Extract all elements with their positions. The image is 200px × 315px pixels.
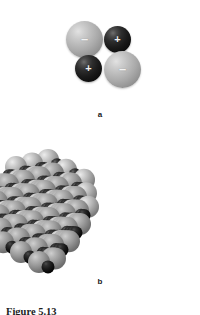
charge-sign-plus: +: [85, 63, 91, 74]
charge-sign-plus: +: [114, 34, 120, 45]
ion-anion-top-left: −: [66, 21, 103, 58]
ion-cation-bottom-left: +: [75, 55, 102, 82]
panel-label-b: b: [0, 277, 200, 286]
figure-container: − + + − a b Figure 5.13: [0, 0, 200, 315]
ion-anion-bottom-right: −: [104, 51, 141, 88]
ion-cation-top-right: +: [104, 26, 131, 53]
panel-a-ion-pair-diagram: − + + −: [0, 10, 200, 110]
panel-label-a: a: [0, 110, 200, 119]
crystal-lattice-svg: [0, 132, 200, 276]
charge-sign-minus: −: [119, 63, 127, 76]
panel-b-crystal-lattice-diagram: [0, 132, 200, 276]
figure-caption: Figure 5.13: [6, 305, 196, 315]
charge-sign-minus: −: [81, 33, 89, 46]
